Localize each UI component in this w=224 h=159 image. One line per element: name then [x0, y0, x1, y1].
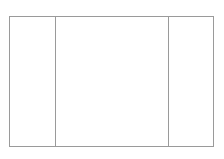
center-panel — [56, 17, 169, 146]
layout-frame — [9, 16, 214, 147]
left-panel — [10, 17, 56, 146]
right-panel — [169, 17, 213, 146]
